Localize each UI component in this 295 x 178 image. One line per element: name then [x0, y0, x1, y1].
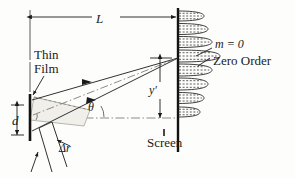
- label-film: Film: [34, 62, 59, 75]
- thin-film-body: [30, 97, 90, 126]
- label-distance-L: L: [96, 12, 103, 25]
- zero-order-pointer: [198, 58, 210, 66]
- label-screen: Screen: [147, 136, 182, 149]
- label-thickness-d: d: [12, 114, 19, 127]
- label-thin: Thin: [34, 48, 59, 61]
- fringe-lobe: [178, 78, 208, 90]
- label-order-m: m = 0: [215, 38, 244, 50]
- label-path-difference: Δr: [59, 142, 71, 154]
- fringe-lobe: [178, 107, 200, 117]
- film-bottom-incident-arrow: [31, 152, 38, 172]
- thin-film-interference-figure: L Thin Film d Δr θ y′ Screen m = 0 Zero …: [0, 0, 295, 178]
- diagram-canvas: [0, 0, 295, 178]
- label-screen-height: y′: [149, 84, 157, 96]
- distance-L-dimension: [31, 9, 176, 25]
- fringe-lobe: [178, 24, 208, 35]
- label-zero-order: Zero Order: [213, 54, 271, 67]
- theta-angle-arc: [101, 106, 104, 117]
- thin-film-pointer: [33, 76, 44, 95]
- label-angle-theta: θ: [88, 101, 94, 113]
